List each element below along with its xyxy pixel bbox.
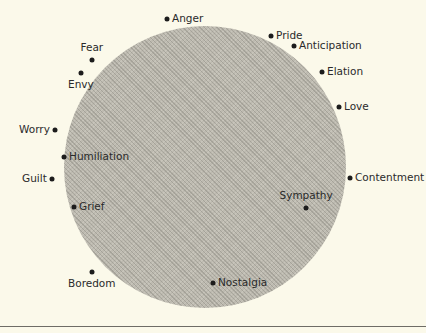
point-fear-label: Fear (81, 41, 104, 53)
point-love-dot (337, 105, 342, 110)
point-sympathy-dot (304, 206, 309, 211)
point-nostalgia-label: Nostalgia (218, 276, 267, 288)
point-humiliation-label: Humiliation (69, 150, 129, 162)
point-worry-dot (53, 128, 58, 133)
point-guilt-dot (50, 177, 55, 182)
point-anticipation-label: Anticipation (299, 39, 362, 51)
point-guilt-label: Guilt (22, 172, 47, 184)
point-envy-label: Envy (68, 78, 94, 90)
point-love-label: Love (344, 100, 369, 112)
point-pride-dot (269, 34, 274, 39)
point-anticipation-dot (292, 44, 297, 49)
point-fear-dot (90, 58, 95, 63)
point-worry-label: Worry (19, 123, 50, 135)
point-anger-dot (165, 17, 170, 22)
shaded-circle (64, 26, 346, 308)
point-humiliation-dot (62, 155, 67, 160)
point-envy-dot (79, 71, 84, 76)
point-boredom-dot (90, 270, 95, 275)
point-grief-label: Grief (79, 200, 105, 212)
point-elation-dot (320, 70, 325, 75)
point-elation-label: Elation (327, 65, 363, 77)
point-sympathy-label: Sympathy (280, 189, 333, 201)
bottom-rule (0, 326, 426, 327)
point-anger-label: Anger (172, 12, 203, 24)
point-contentment-label: Contentment (355, 171, 424, 183)
point-contentment-dot (348, 176, 353, 181)
emotion-diagram: AngerPrideAnticipationElationLoveFearEnv… (0, 0, 426, 333)
point-grief-dot (72, 205, 77, 210)
point-boredom-label: Boredom (68, 277, 116, 289)
point-nostalgia-dot (211, 281, 216, 286)
